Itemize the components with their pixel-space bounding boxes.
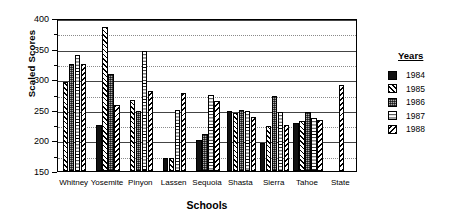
y-axis-tick-label: 300 <box>9 75 49 85</box>
legend-swatch-1988 <box>388 125 397 134</box>
bar-sequoia-1988 <box>214 101 219 171</box>
y-axis-tick-label: 400 <box>9 14 49 24</box>
bar-shasta-1986 <box>239 110 244 171</box>
x-axis-label-whitney: Whitney <box>59 178 88 187</box>
bar-pinyon-1988 <box>148 91 153 171</box>
y-axis-title: Scaled Scores <box>26 9 37 119</box>
legend-swatch-1987 <box>388 111 397 120</box>
legend-label-1988: 1988 <box>406 124 425 134</box>
bar-yosemite-1986 <box>108 74 113 171</box>
legend-label-1986: 1986 <box>406 97 425 107</box>
bar-sierra-1984 <box>260 143 265 171</box>
bar-sierra-1988 <box>284 125 289 171</box>
y-axis-tick-mark <box>52 172 57 173</box>
bar-pinyon-1986 <box>136 111 141 171</box>
legend-label-1985: 1985 <box>406 84 425 94</box>
bar-tahoe-1986 <box>305 112 310 171</box>
legend-entry-1984: 1984 <box>388 70 458 80</box>
bar-sequoia-1986 <box>202 134 207 171</box>
x-axis-title: Schools <box>57 199 357 211</box>
bar-whitney-1987 <box>75 55 80 171</box>
y-axis-tick-label: 200 <box>9 136 49 146</box>
x-axis-label-shasta: Shasta <box>228 178 253 187</box>
bar-lassen-1987 <box>175 110 180 171</box>
bar-lassen-1984 <box>163 158 168 171</box>
y-axis-tick-label: 150 <box>9 167 49 177</box>
legend-label-1984: 1984 <box>406 70 425 80</box>
legend-label-1987: 1987 <box>406 111 425 121</box>
x-axis-label-lassen: Lassen <box>161 178 187 187</box>
gridline-major <box>58 20 356 21</box>
y-axis-tick-label: 350 <box>9 45 49 55</box>
bar-whitney-1986 <box>69 64 74 171</box>
legend-entry-1985: 1985 <box>388 84 458 94</box>
bar-yosemite-1985 <box>102 27 107 171</box>
bar-whitney-1985 <box>63 82 68 171</box>
bar-lassen-1985 <box>169 158 174 171</box>
bar-yosemite-1984 <box>96 125 101 171</box>
bar-shasta-1988 <box>251 117 256 171</box>
bar-tahoe-1985 <box>299 121 304 171</box>
x-axis-label-tahoe: Tahoe <box>296 178 318 187</box>
bar-shasta-1984 <box>227 111 232 171</box>
bar-sequoia-1984 <box>196 140 201 171</box>
bar-tahoe-1987 <box>311 118 316 171</box>
legend-swatch-1986 <box>388 98 397 107</box>
bar-state-1988 <box>339 85 344 171</box>
bar-chart: Scaled Scores 150200250300350400 Whitney… <box>0 0 460 223</box>
legend-entries: 19841985198619871988 <box>388 70 458 134</box>
plot-area <box>57 19 357 172</box>
bar-lassen-1988 <box>181 93 186 171</box>
bar-sierra-1987 <box>278 112 283 171</box>
legend: Years 19841985198619871988 <box>388 50 458 138</box>
bar-yosemite-1988 <box>114 105 119 171</box>
legend-swatch-1984 <box>388 71 397 80</box>
bar-shasta-1987 <box>245 111 250 171</box>
legend-entry-1986: 1986 <box>388 97 458 107</box>
x-axis-label-sierra: Sierra <box>263 178 284 187</box>
y-axis-tick-label: 250 <box>9 106 49 116</box>
bar-sequoia-1987 <box>208 95 213 172</box>
bar-whitney-1988 <box>81 64 86 171</box>
x-axis-label-state: State <box>331 178 350 187</box>
bar-shasta-1985 <box>233 113 238 171</box>
x-axis-label-pinyon: Pinyon <box>128 178 152 187</box>
bar-sierra-1986 <box>272 96 277 171</box>
bar-sierra-1985 <box>266 126 271 171</box>
bar-tahoe-1984 <box>293 123 298 171</box>
x-axis-label-yosemite: Yosemite <box>91 178 124 187</box>
x-axis-label-sequoia: Sequoia <box>192 178 221 187</box>
legend-entry-1988: 1988 <box>388 124 458 134</box>
bar-pinyon-1987 <box>142 51 147 171</box>
legend-entry-1987: 1987 <box>388 111 458 121</box>
legend-title: Years <box>398 50 458 61</box>
bar-tahoe-1988 <box>317 120 322 171</box>
bar-pinyon-1985 <box>130 100 135 171</box>
legend-swatch-1985 <box>388 84 397 93</box>
